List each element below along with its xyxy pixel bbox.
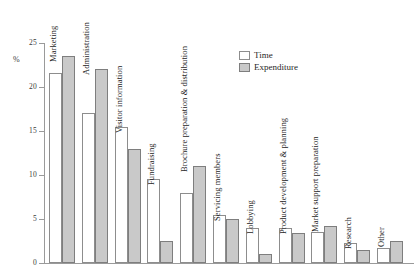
category-label: Research [343,217,353,249]
plot-area [44,43,414,263]
bar-time [213,215,226,263]
category-label: Brochure preparation & distribution [179,46,189,172]
bar-expenditure [128,149,141,263]
category-label: Servicing members [212,153,222,221]
legend-item-expenditure: Expenditure [239,62,298,72]
bar-expenditure [357,250,370,263]
bar-chart: % 0510152025 MarketingAdministrationVisi… [0,0,417,275]
category-label: Marketing [48,26,58,62]
bar-expenditure [193,166,206,263]
bar-group [213,215,241,263]
bar-group [115,127,143,263]
legend-label-time: Time [254,50,273,60]
y-axis-tick-label: 0 [33,258,37,267]
category-label: Product development & planning [278,118,288,234]
bar-expenditure [95,69,108,263]
category-label: Lobbying [245,200,255,234]
bar-group [82,69,110,263]
category-label: Fundraising [146,144,156,186]
bar-expenditure [62,56,75,263]
y-axis-tick-label: 20 [29,82,37,91]
bar-time [49,73,62,263]
y-axis-tick [39,263,44,264]
category-label: Administration [81,23,91,76]
category-label: Other [376,227,386,247]
bar-time [377,248,390,263]
y-axis-tick-label: 5 [33,214,37,223]
bar-group [49,56,77,263]
bar-time [311,232,324,263]
x-axis-line [44,263,414,264]
bar-time [180,193,193,263]
legend-swatch-time-icon [239,51,250,60]
y-axis-tick-label: 15 [29,126,37,135]
bar-time [147,179,160,263]
bar-group [147,179,175,263]
category-label: Visitor information [114,66,124,133]
bar-expenditure [390,241,403,263]
y-axis-tick-label: 25 [29,38,37,47]
bar-time [115,127,128,263]
y-axis-tick-label: 10 [29,170,37,179]
category-label: Market support preparation [310,136,320,232]
y-axis-unit-label: % [13,55,20,64]
legend-item-time: Time [239,50,298,60]
bar-group [180,166,208,263]
bar-expenditure [226,219,239,263]
legend: Time Expenditure [239,50,298,74]
bar-expenditure [324,226,337,263]
legend-swatch-expenditure-icon [239,63,250,72]
bar-time [82,113,95,263]
bar-expenditure [292,233,305,263]
bar-expenditure [160,241,173,263]
bar-expenditure [259,254,272,263]
legend-label-expenditure: Expenditure [254,62,298,72]
